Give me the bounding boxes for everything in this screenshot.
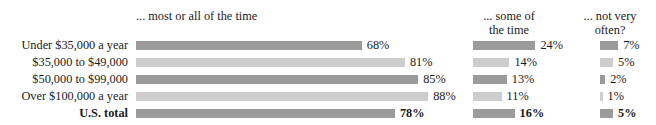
bar-value-some-of-the-time: 13% bbox=[512, 72, 535, 87]
bar-most-or-all bbox=[136, 92, 428, 101]
bar-most-or-all bbox=[136, 41, 362, 50]
bar-most-or-all bbox=[136, 109, 395, 118]
bar-some-of-the-time bbox=[473, 41, 535, 50]
chart-row: $50,000 to $99,00085%13%2% bbox=[0, 72, 656, 87]
bar-value-some-of-the-time: 11% bbox=[507, 89, 529, 104]
column-header-most-or-all: ... most or all of the time bbox=[136, 10, 257, 24]
chart-row: $35,000 to $49,00081%14%5% bbox=[0, 55, 656, 70]
chart-row: Over $100,000 a year88%11%1% bbox=[0, 89, 656, 104]
row-label: $35,000 to $49,000 bbox=[0, 55, 128, 70]
bar-value-some-of-the-time: 14% bbox=[514, 55, 537, 70]
column-header-not-line1: ... not very bbox=[584, 9, 637, 23]
column-header-some-line2: the time bbox=[466, 24, 552, 38]
column-header-some-line1: ... some of bbox=[483, 9, 535, 23]
bar-not-very-often bbox=[600, 75, 605, 84]
bar-value-most-or-all: 85% bbox=[423, 72, 446, 87]
bar-value-most-or-all: 81% bbox=[410, 55, 433, 70]
column-header-some-of-the-time: ... some of the time bbox=[466, 10, 552, 37]
bar-some-of-the-time bbox=[473, 58, 509, 67]
bar-most-or-all bbox=[136, 75, 418, 84]
bar-some-of-the-time bbox=[473, 92, 502, 101]
bar-most-or-all bbox=[136, 58, 405, 67]
bar-not-very-often bbox=[600, 58, 613, 67]
bar-not-very-often bbox=[600, 41, 618, 50]
row-label: $50,000 to $99,000 bbox=[0, 72, 128, 87]
bar-value-most-or-all: 88% bbox=[433, 89, 456, 104]
column-header-not-very-often: ... not very often? bbox=[566, 10, 654, 37]
bar-value-not-very-often: 7% bbox=[623, 38, 639, 53]
row-label: Over $100,000 a year bbox=[0, 89, 128, 104]
chart-row: Under $35,000 a year68%24%7% bbox=[0, 38, 656, 53]
row-label: U.S. total bbox=[0, 106, 128, 121]
column-header-not-line2: often? bbox=[566, 24, 654, 38]
row-label: Under $35,000 a year bbox=[0, 38, 128, 53]
grouped-bar-chart: ... most or all of the time ... some of … bbox=[0, 0, 656, 125]
bar-value-most-or-all: 78% bbox=[400, 106, 425, 121]
bar-not-very-often bbox=[600, 109, 613, 118]
bar-value-some-of-the-time: 16% bbox=[520, 106, 545, 121]
bar-value-not-very-often: 5% bbox=[618, 55, 634, 70]
bar-some-of-the-time bbox=[473, 75, 507, 84]
cutoff-title-sliver bbox=[0, 0, 656, 5]
column-header-most-or-all-label: ... most or all of the time bbox=[136, 9, 257, 23]
bar-value-most-or-all: 68% bbox=[367, 38, 390, 53]
chart-row: U.S. total78%16%5% bbox=[0, 106, 656, 121]
bar-some-of-the-time bbox=[473, 109, 515, 118]
bar-value-not-very-often: 2% bbox=[610, 72, 626, 87]
bar-value-some-of-the-time: 24% bbox=[540, 38, 563, 53]
bar-value-not-very-often: 1% bbox=[608, 89, 624, 104]
bar-not-very-often bbox=[600, 92, 603, 101]
bar-value-not-very-often: 5% bbox=[618, 106, 636, 121]
